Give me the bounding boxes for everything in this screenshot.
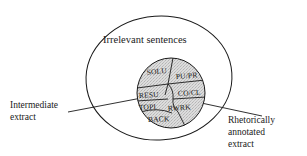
cell-label-back: BACK [148, 114, 170, 124]
cell-label-rwrk: RWRK [168, 102, 192, 113]
left-callout-line1: Intermediate [10, 100, 58, 110]
left-callout-line2: extract [10, 112, 36, 122]
rhetorical-extract-diagram: Irrelevant sentences SOLU PU/PR RESU CO/… [0, 0, 307, 156]
right-callout-line3: extract [228, 139, 254, 149]
cell-label-pupr: PU/PR [176, 70, 199, 81]
cell-label-resu: RESU [139, 90, 160, 100]
cell-label-topi: TOPI [139, 102, 157, 112]
cell-label-cocl: CO/CL [178, 88, 202, 98]
right-callout-line1: Rhetorically [228, 115, 275, 125]
outer-region-label: Irrelevant sentences [103, 34, 187, 45]
right-callout-line2: annotated [228, 127, 265, 137]
